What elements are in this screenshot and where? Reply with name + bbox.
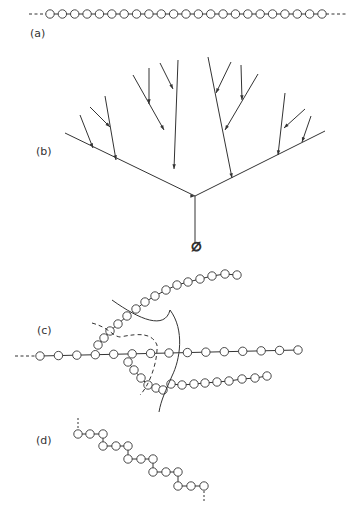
root-empty-symbol: ∅	[191, 240, 201, 254]
panel-b-branched-tree: ∅	[65, 57, 325, 254]
panel-c-branched-chains	[15, 270, 302, 412]
panel-d-zigzag-chain	[74, 418, 208, 502]
figure-canvas: ∅	[0, 0, 352, 513]
panel-a-linear-chain	[29, 10, 346, 18]
